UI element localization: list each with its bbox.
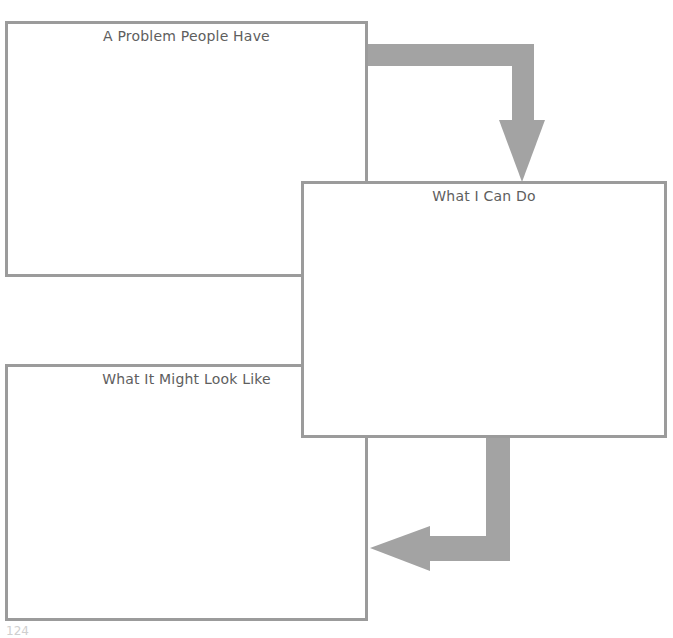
arrow-right-down-icon [366, 44, 545, 182]
arrow-down-left-icon [370, 436, 510, 571]
box-what-i-can-do: What I Can Do [301, 181, 667, 438]
box-title: What I Can Do [304, 188, 664, 204]
page-number: 124 [6, 624, 29, 638]
box-title: A Problem People Have [8, 28, 365, 44]
